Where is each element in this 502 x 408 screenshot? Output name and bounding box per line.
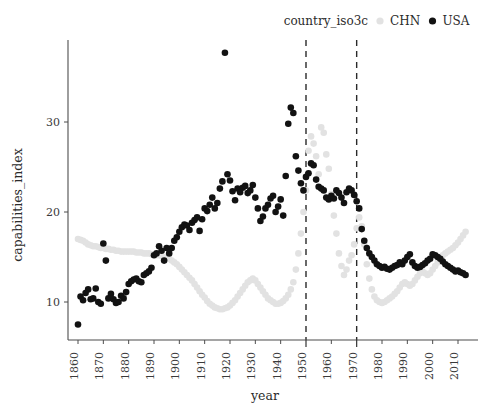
data-point — [290, 279, 297, 286]
data-point — [242, 183, 249, 190]
data-point — [293, 266, 300, 273]
axes — [68, 40, 478, 340]
data-point — [331, 195, 338, 202]
data-point — [255, 205, 262, 212]
data-point — [305, 170, 312, 177]
data-point — [123, 289, 130, 296]
data-point — [186, 227, 193, 234]
data-point — [275, 203, 282, 210]
legend: country_iso3cCHNUSA — [284, 14, 470, 28]
data-point — [326, 166, 333, 173]
x-tick-label: 1880 — [119, 352, 132, 380]
data-point — [250, 182, 257, 189]
data-point — [148, 265, 155, 272]
data-point — [199, 216, 206, 223]
data-point — [252, 194, 259, 201]
y-tick-label: 30 — [46, 116, 60, 129]
x-tick-label: 2010 — [448, 352, 461, 380]
x-tick-label: 1930 — [245, 352, 258, 380]
data-point — [407, 251, 414, 258]
data-point — [364, 261, 371, 268]
data-point — [353, 198, 360, 205]
x-tick-label: 2000 — [423, 352, 436, 380]
data-point — [288, 286, 295, 293]
data-point — [356, 205, 363, 212]
data-point — [98, 301, 105, 308]
data-point — [298, 230, 305, 237]
data-point — [209, 194, 216, 201]
x-tick-label: 1890 — [144, 352, 157, 380]
data-point — [290, 110, 297, 117]
data-point — [282, 173, 289, 180]
data-point — [280, 212, 287, 219]
data-point — [232, 197, 239, 204]
data-point — [331, 212, 338, 219]
data-point — [138, 279, 145, 286]
data-point — [320, 187, 327, 194]
data-point — [356, 214, 363, 221]
data-point — [120, 295, 127, 302]
data-point — [75, 321, 82, 328]
data-point — [336, 250, 343, 257]
x-tick-label: 1870 — [93, 352, 106, 380]
data-point — [300, 209, 307, 216]
data-point — [270, 193, 277, 200]
data-point — [217, 185, 224, 192]
data-point — [320, 130, 327, 137]
data-point — [204, 208, 211, 215]
data-point — [300, 187, 307, 194]
y-tick-label: 20 — [46, 206, 60, 219]
x-tick-label: 1920 — [220, 352, 233, 380]
legend-title: country_iso3c — [284, 14, 369, 28]
data-point — [343, 266, 350, 273]
data-point — [80, 297, 87, 304]
x-tick-label: 1990 — [397, 352, 410, 380]
data-point — [305, 148, 312, 155]
data-point — [310, 162, 317, 169]
data-point — [313, 153, 320, 160]
data-point — [361, 238, 368, 245]
data-point — [277, 196, 284, 203]
x-axis-title: year — [250, 388, 279, 403]
data-point — [348, 252, 355, 259]
y-tick-label: 10 — [46, 296, 60, 309]
y-axis-ticks: 102030 — [46, 116, 68, 309]
data-point — [92, 285, 99, 292]
data-point — [285, 121, 292, 128]
legend-label-usa[interactable]: USA — [443, 14, 470, 28]
data-point — [323, 151, 330, 158]
x-tick-label: 1980 — [372, 352, 385, 380]
data-point — [369, 286, 376, 293]
data-point — [462, 229, 469, 236]
data-point — [214, 200, 221, 207]
legend-marker-usa-dot-icon[interactable] — [429, 17, 436, 24]
data-point — [351, 192, 358, 199]
x-tick-label: 1910 — [195, 352, 208, 380]
legend-label-chn[interactable]: CHN — [390, 14, 420, 28]
data-point — [341, 200, 348, 207]
data-point — [219, 178, 226, 185]
data-point — [310, 140, 317, 147]
data-point — [293, 153, 300, 160]
legend-marker-chn-dot-icon[interactable] — [376, 17, 383, 24]
series-points-chn — [75, 124, 469, 312]
x-tick-label: 1900 — [169, 352, 182, 380]
scatter-plot-canvas[interactable]: country_iso3cCHNUSA 18601870188018901900… — [0, 0, 502, 408]
data-point — [308, 133, 315, 140]
data-point — [196, 228, 203, 235]
data-point — [222, 49, 229, 56]
x-tick-label: 1970 — [347, 352, 360, 380]
data-point — [351, 241, 358, 248]
data-point — [333, 230, 340, 237]
data-point — [295, 167, 302, 174]
x-axis-ticks: 1860187018801890190019101920193019401950… — [68, 340, 461, 380]
data-point — [161, 257, 168, 264]
data-point — [358, 226, 365, 233]
x-tick-label: 1960 — [321, 352, 334, 380]
data-point — [260, 213, 267, 220]
data-point — [103, 257, 110, 264]
data-point — [366, 275, 373, 282]
data-point — [462, 272, 469, 279]
chart-figure: country_iso3cCHNUSA 18601870188018901900… — [0, 0, 502, 408]
data-point — [224, 171, 231, 178]
